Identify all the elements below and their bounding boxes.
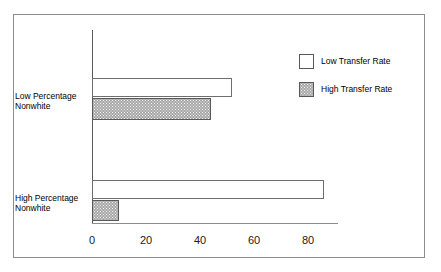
x-axis-line bbox=[92, 223, 338, 224]
x-tick-label-40: 40 bbox=[188, 234, 212, 247]
x-tick-label-0: 0 bbox=[80, 234, 104, 247]
legend-label-low-transfer-rate: Low Transfer Rate bbox=[321, 54, 390, 69]
legend-swatch-low-transfer-rate bbox=[299, 54, 314, 69]
bar-low-percentage-nonwhite-low-transfer-rate bbox=[92, 78, 232, 97]
chart-legend: Low Transfer Rate High Transfer Rate bbox=[299, 52, 419, 108]
legend-item-low-transfer-rate: Low Transfer Rate bbox=[299, 52, 419, 80]
x-tick-label-60: 60 bbox=[242, 234, 266, 247]
legend-item-high-transfer-rate: High Transfer Rate bbox=[299, 80, 419, 108]
x-tick-label-20: 20 bbox=[134, 234, 158, 247]
category-label-low-percentage-nonwhite: Low Percentage Nonwhite bbox=[15, 91, 91, 111]
category-label-high-percentage-nonwhite: High Percentage Nonwhite bbox=[15, 193, 93, 213]
bar-high-percentage-nonwhite-low-transfer-rate bbox=[92, 180, 324, 199]
chart-frame: Low Percentage Nonwhite High Percentage … bbox=[13, 14, 425, 258]
bar-high-percentage-nonwhite-high-transfer-rate bbox=[92, 200, 119, 221]
bar-low-percentage-nonwhite-high-transfer-rate bbox=[92, 98, 211, 120]
legend-label-high-transfer-rate: High Transfer Rate bbox=[321, 82, 392, 97]
legend-swatch-high-transfer-rate bbox=[299, 82, 314, 97]
x-tick-label-80: 80 bbox=[296, 234, 320, 247]
